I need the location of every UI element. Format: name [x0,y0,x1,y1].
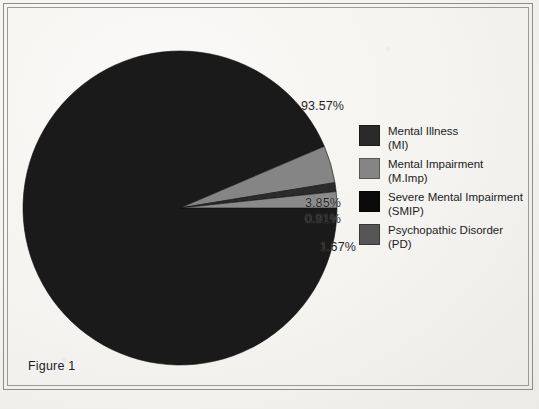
figure-caption: Figure 1 [28,359,75,373]
legend-label-psychopathic-disorder: Psychopathic Disorder (PD) [388,223,503,251]
legend-label-line2: (MI) [388,138,458,152]
legend-label-line1: Severe Mental Impairment [388,191,523,203]
legend-swatch-icon-mental-illness [359,125,380,146]
legend-label-line2: (SMIP) [388,204,523,218]
legend-label-mental-illness: Mental Illness (MI) [388,124,458,152]
pie-label-severe-mental-impairment: 0.91% [305,212,341,226]
legend-label-severe-mental-impairment: Severe Mental Impairment (SMIP) [388,190,523,218]
legend-label-line1: Mental Impairment [388,158,483,170]
legend-item-severe-mental-impairment: Severe Mental Impairment (SMIP) [359,190,529,218]
chart-legend: Mental Illness (MI) Mental Impairment (M… [359,124,529,256]
pie-chart-svg [22,50,338,366]
legend-swatch-icon-psychopathic-disorder [359,224,380,245]
pie-chart-figure: 93.57% 3.85% 0.91% 1.67% Mental Illness … [0,0,539,409]
legend-label-line2: (M.Imp) [388,171,483,185]
scanned-page: 93.57% 3.85% 0.91% 1.67% Mental Illness … [0,0,539,409]
legend-label-line1: Psychopathic Disorder [388,224,503,236]
legend-label-line1: Mental Illness [388,125,458,137]
legend-item-mental-illness: Mental Illness (MI) [359,124,529,152]
legend-label-line2: (PD) [388,237,503,251]
legend-swatch-icon-severe-mental-impairment [359,191,380,212]
legend-item-mental-impairment: Mental Impairment (M.Imp) [359,157,529,185]
pie-label-mental-impairment: 3.85% [305,196,341,210]
legend-label-mental-impairment: Mental Impairment (M.Imp) [388,157,483,185]
pie-label-psychopathic-disorder: 1.67% [320,240,356,254]
legend-swatch-icon-mental-impairment [359,158,380,179]
pie-slices [23,51,337,365]
pie-label-mental-illness: 93.57% [301,99,344,113]
legend-item-psychopathic-disorder: Psychopathic Disorder (PD) [359,223,529,251]
